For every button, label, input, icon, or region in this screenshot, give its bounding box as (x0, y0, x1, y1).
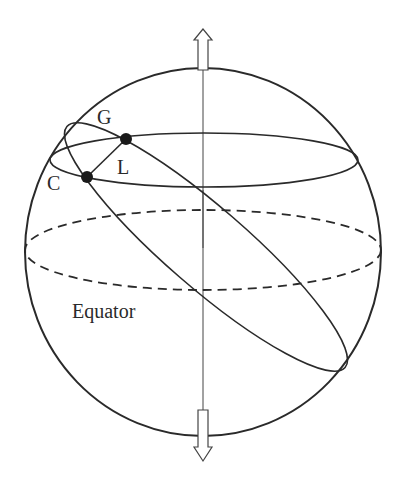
point-c-dot (81, 171, 93, 183)
latitude-circle (50, 133, 358, 187)
north-arrow-icon (194, 29, 212, 70)
point-g-dot (120, 133, 132, 145)
label-g: G (97, 106, 111, 128)
label-equator: Equator (72, 300, 136, 323)
label-c: C (47, 172, 60, 194)
celestial-sphere-diagram: G L C Equator (0, 0, 400, 485)
label-l: L (117, 156, 129, 178)
